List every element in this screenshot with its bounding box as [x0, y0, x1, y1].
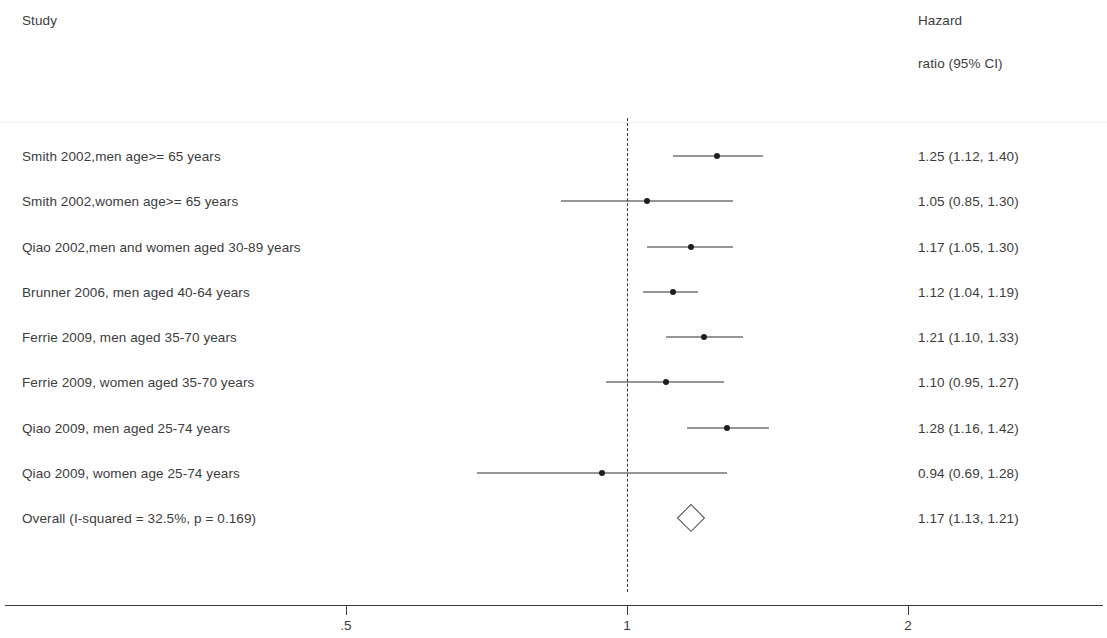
- overall-effect-value: 1.17 (1.13, 1.21): [918, 511, 1019, 526]
- x-axis-tick-label: 1: [623, 618, 631, 633]
- x-axis-tick-label: 2: [904, 618, 912, 633]
- x-axis-tick-mark: [627, 606, 628, 615]
- study-label: Ferrie 2009, women aged 35-70 years: [22, 375, 254, 390]
- x-axis-tick-mark: [908, 606, 909, 615]
- x-axis-line: [5, 605, 1103, 606]
- point-estimate-marker: [644, 198, 650, 204]
- point-estimate-marker: [724, 425, 730, 431]
- effect-value: 1.10 (0.95, 1.27): [918, 375, 1019, 390]
- forest-plot: Study Hazard ratio (95% CI) Smith 2002,m…: [0, 0, 1107, 638]
- effect-value: 1.12 (1.04, 1.19): [918, 284, 1019, 299]
- effect-value: 1.17 (1.05, 1.30): [918, 239, 1019, 254]
- overall-label: Overall (I-squared = 32.5%, p = 0.169): [22, 511, 256, 526]
- effect-value: 1.21 (1.10, 1.33): [918, 330, 1019, 345]
- summary-diamond: [676, 504, 704, 532]
- study-label: Smith 2002,women age>= 65 years: [22, 194, 238, 209]
- null-effect-reference-line: [627, 118, 628, 592]
- effect-value: 1.25 (1.12, 1.40): [918, 149, 1019, 164]
- study-label: Ferrie 2009, men aged 35-70 years: [22, 330, 237, 345]
- study-label: Qiao 2009, men aged 25-74 years: [22, 420, 230, 435]
- study-label: Smith 2002,men age>= 65 years: [22, 149, 221, 164]
- effect-value: 1.05 (0.85, 1.30): [918, 194, 1019, 209]
- column-header-ratio-ci: ratio (95% CI): [918, 56, 1003, 71]
- point-estimate-marker: [701, 334, 707, 340]
- point-estimate-marker: [714, 153, 720, 159]
- x-axis-tick-label: .5: [340, 618, 351, 633]
- column-header-study: Study: [22, 13, 57, 28]
- study-label: Brunner 2006, men aged 40-64 years: [22, 284, 250, 299]
- x-axis-tick-mark: [346, 606, 347, 615]
- point-estimate-marker: [663, 379, 669, 385]
- effect-value: 1.28 (1.16, 1.42): [918, 420, 1019, 435]
- point-estimate-marker: [670, 289, 676, 295]
- study-label: Qiao 2009, women age 25-74 years: [22, 465, 240, 480]
- column-header-hazard: Hazard: [918, 13, 962, 28]
- point-estimate-marker: [599, 470, 605, 476]
- point-estimate-marker: [688, 244, 694, 250]
- effect-value: 0.94 (0.69, 1.28): [918, 465, 1019, 480]
- header-divider: [0, 122, 1107, 123]
- study-label: Qiao 2002,men and women aged 30-89 years: [22, 239, 301, 254]
